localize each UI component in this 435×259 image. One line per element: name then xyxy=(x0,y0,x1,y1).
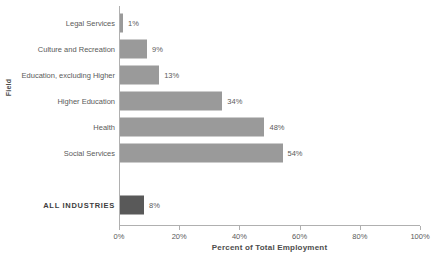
bar-category-label: Higher Education xyxy=(57,97,115,106)
bar-row: Legal Services1% xyxy=(119,10,420,36)
x-axis-tick-mark xyxy=(360,226,361,230)
bar: 8% xyxy=(120,196,144,215)
bar-value-label: 9% xyxy=(152,45,163,54)
x-axis-title: Percent of Total Employment xyxy=(119,243,420,252)
bar-row-spacer xyxy=(119,166,420,192)
bar: 48% xyxy=(120,118,264,137)
bar-value-label: 48% xyxy=(269,123,284,132)
bar: 13% xyxy=(120,66,159,85)
x-axis-tick-mark xyxy=(300,226,301,230)
bar-category-label: Health xyxy=(93,123,115,132)
x-axis-tick-mark xyxy=(239,226,240,230)
bar-category-label: Education, excluding Higher xyxy=(22,71,115,80)
bar-value-label: 13% xyxy=(164,71,179,80)
bar: 34% xyxy=(120,92,222,111)
x-axis-tick-label: 60% xyxy=(292,232,307,241)
bar-category-label: Social Services xyxy=(64,149,115,158)
x-axis-tick-mark xyxy=(119,226,120,230)
bar-value-label: 8% xyxy=(149,201,160,210)
bar-row: Health48% xyxy=(119,114,420,140)
bar-row: Social Services54% xyxy=(119,140,420,166)
x-axis-tick-label: 80% xyxy=(352,232,367,241)
y-axis-title: Field xyxy=(5,68,12,108)
bar: 9% xyxy=(120,40,147,59)
bar: 54% xyxy=(120,144,283,163)
bar-category-label: ALL INDUSTRIES xyxy=(43,201,115,210)
x-axis-tick-label: 0% xyxy=(114,232,125,241)
bar-value-label: 1% xyxy=(128,19,139,28)
x-axis-tick-label: 20% xyxy=(172,232,187,241)
x-axis-tick-mark xyxy=(179,226,180,230)
bar: 1% xyxy=(120,14,123,33)
plot-area: 0%20%40%60%80%100%Legal Services1%Cultur… xyxy=(119,6,420,226)
bar-row: Higher Education34% xyxy=(119,88,420,114)
x-axis-tick-label: 100% xyxy=(410,232,429,241)
bar-row: Education, excluding Higher13% xyxy=(119,62,420,88)
x-axis-tick-mark xyxy=(420,226,421,230)
bar-value-label: 54% xyxy=(288,149,303,158)
bar-row: Culture and Recreation9% xyxy=(119,36,420,62)
x-axis-tick-label: 40% xyxy=(232,232,247,241)
bar-category-label: Legal Services xyxy=(66,19,115,28)
bar-category-label: Culture and Recreation xyxy=(38,45,115,54)
bar-chart: Field 0%20%40%60%80%100%Legal Services1%… xyxy=(0,0,435,259)
bar-value-label: 34% xyxy=(227,97,242,106)
bar-row: ALL INDUSTRIES8% xyxy=(119,192,420,218)
x-axis-line xyxy=(119,225,420,226)
